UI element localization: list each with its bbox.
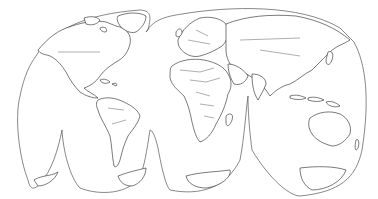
map-canvas <box>0 0 378 199</box>
australia <box>309 112 351 146</box>
antarctica-sa <box>118 168 146 186</box>
indonesia <box>290 95 340 107</box>
antarctica-west <box>34 172 58 186</box>
new-zealand <box>355 139 359 149</box>
madagascar <box>226 114 233 126</box>
antarctica-africa <box>186 170 230 188</box>
south-america <box>97 98 141 167</box>
europe <box>178 17 228 56</box>
north-america <box>38 21 130 98</box>
world-map <box>0 0 378 199</box>
caribbean <box>100 79 117 86</box>
antarctica-east <box>300 167 346 190</box>
